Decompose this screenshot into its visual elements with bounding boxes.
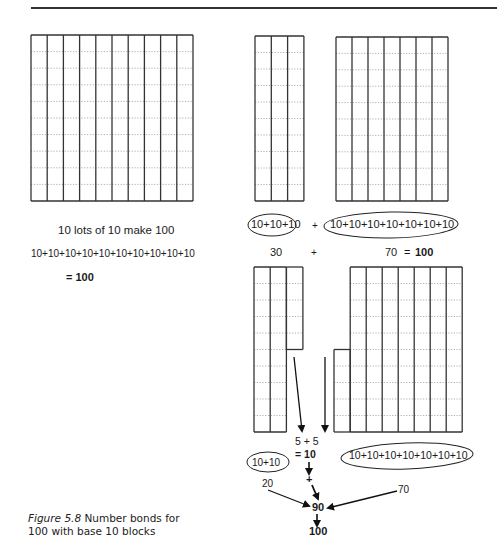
sum-equals: = — [404, 247, 410, 258]
halves-result: = 10 — [295, 449, 316, 460]
figure-label: Figure 5.8 — [28, 512, 81, 524]
figure-caption: Figure 5.8 Number bonds for 100 with bas… — [28, 512, 180, 538]
expr-twenty: 10+10 — [252, 458, 280, 468]
sum-total: 100 — [415, 247, 433, 258]
expr-seventy: 10+10+10+10+10+10+10 — [330, 219, 454, 230]
expr-seventy-bottom: 10+10+10+10+10+10+10 — [349, 450, 468, 461]
sum-thirty: 30 — [270, 247, 282, 258]
halves-sum: 5 + 5 — [295, 436, 319, 447]
figure-title-line1: Number bonds for — [84, 512, 179, 524]
plus-sign: + — [306, 474, 312, 485]
left-result: = 100 — [66, 272, 94, 283]
left-statement: 10 lots of 10 make 100 — [58, 225, 174, 237]
label-twenty: 20 — [262, 479, 273, 489]
left-expression: 10+10+10+10+10+10+10+10+10+10 — [31, 249, 195, 259]
label-ninety: 90 — [312, 502, 324, 513]
sum-plus: + — [311, 248, 317, 258]
expr-thirty: 10+10+10 — [251, 219, 301, 230]
sum-seventy: 70 — [385, 247, 397, 258]
expr-plus: + — [312, 221, 318, 231]
label-hundred: 100 — [309, 526, 327, 537]
label-seventy: 70 — [398, 485, 409, 495]
figure-title-line2: 100 with base 10 blocks — [28, 525, 155, 537]
